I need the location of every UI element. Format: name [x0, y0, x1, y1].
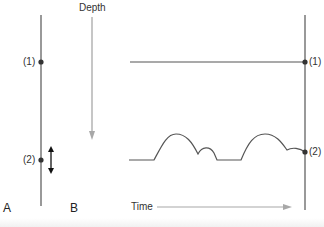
- bottom-margin: [0, 218, 324, 227]
- point-1-label: (1): [23, 57, 35, 67]
- time-arrow-icon: [157, 204, 292, 210]
- point-2-dot: [38, 157, 43, 162]
- right-point-2-dot: [302, 149, 307, 154]
- right-point-2-label: (2): [309, 147, 321, 157]
- right-point-1-dot: [302, 59, 307, 64]
- point-2-trace: [129, 134, 305, 160]
- panel-b-label: B: [70, 202, 78, 214]
- point-2-label: (2): [23, 155, 35, 165]
- diagram-canvas: [0, 0, 324, 227]
- depth-axis-label: Depth: [79, 3, 106, 13]
- diagram: (1) (2) Depth (1) (2) A B Time: [0, 0, 324, 227]
- panel-a-label: A: [3, 202, 11, 214]
- right-point-1-label: (1): [309, 57, 321, 67]
- depth-arrow-icon: [89, 17, 95, 140]
- double-arrow-icon: [48, 146, 54, 174]
- point-1-dot: [38, 59, 43, 64]
- time-axis-label: Time: [131, 202, 153, 212]
